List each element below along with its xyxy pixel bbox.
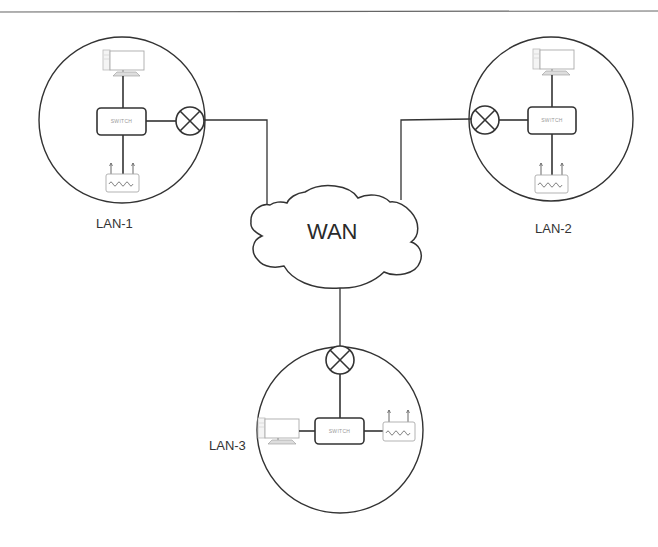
lan-3-switch-label: SWITCH — [315, 428, 364, 434]
crossed-circle-icon — [326, 346, 354, 374]
crossed-circle-icon — [471, 106, 499, 134]
crossed-circle-icon — [176, 107, 204, 135]
wan-label: WAN — [307, 219, 358, 245]
lan-1-wan-link — [204, 120, 267, 206]
desktop-computer-icon — [103, 50, 144, 76]
lan-2-label: LAN-2 — [535, 221, 572, 236]
lan-3-label: LAN-3 — [209, 438, 246, 453]
wireless-router-icon — [383, 410, 415, 441]
lan-2-switch-label: SWITCH — [528, 117, 576, 123]
lan-2-wan-link — [401, 119, 471, 200]
lan-1-label: LAN-1 — [96, 216, 133, 231]
network-diagram — [0, 0, 658, 547]
top-divider — [0, 11, 658, 12]
desktop-computer-icon — [533, 49, 574, 75]
lan-1-switch-label: SWITCH — [97, 118, 146, 124]
desktop-computer-icon — [258, 418, 299, 444]
